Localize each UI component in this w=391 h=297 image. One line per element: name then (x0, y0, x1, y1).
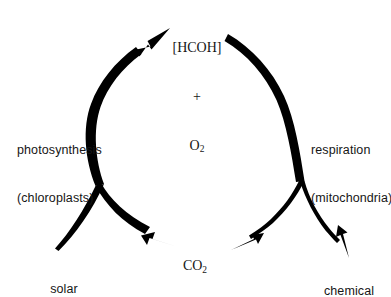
chemical-energy-label: chemical energy (311, 251, 387, 297)
solar-energy-label: solar energy (33, 249, 95, 297)
solar-energy-line-1: solar (33, 281, 95, 297)
photosynthesis-label-line-2: (chloroplasts) (17, 190, 102, 206)
respiration-to-substrate-arrow (231, 180, 305, 250)
product-line-1: [HCOH] (160, 40, 234, 56)
product-oxygen-formula: O (190, 138, 200, 153)
chemical-energy-line-1: chemical (311, 283, 387, 297)
substrate-line-1: CO2 (158, 258, 232, 274)
respiration-arrow (225, 34, 305, 182)
respiration-label-line-2: (mitochondria) (311, 190, 391, 206)
photosynthesis-label: photosynthesis (chloroplasts) (17, 110, 102, 238)
cycle-diagram-figure: [HCOH] + O2 CO2 + H2O photosynthesis (ch… (0, 0, 391, 297)
photosynthesis-label-line-1: photosynthesis (17, 142, 102, 158)
substrate-label: CO2 + H2O (158, 226, 232, 297)
product-line-3: O2 (160, 138, 234, 154)
respiration-label: respiration (mitochondria) (311, 110, 391, 238)
product-oxygen-subscript: 2 (200, 144, 205, 154)
product-label: [HCOH] + O2 (160, 8, 234, 187)
product-plus-sign: + (160, 89, 234, 105)
carbon-dioxide-subscript: 2 (202, 265, 207, 275)
carbon-dioxide-formula: CO (183, 258, 202, 273)
respiration-label-line-1: respiration (311, 142, 391, 158)
